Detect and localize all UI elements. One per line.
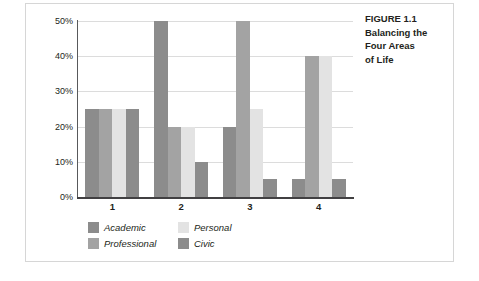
bar-academic-3	[223, 127, 237, 197]
x-axis-tick-4: 4	[316, 201, 321, 212]
y-axis-tick-50pct: 50%	[55, 16, 73, 26]
legend-item-professional: Professional	[88, 237, 156, 250]
bar-group-4	[292, 21, 346, 197]
y-axis-tick-10pct: 10%	[55, 157, 73, 167]
x-axis-tick-3: 3	[247, 201, 252, 212]
legend-label-academic: Academic	[104, 222, 146, 233]
legend-swatch-personal	[178, 222, 189, 233]
bar-academic-4	[292, 179, 306, 197]
bar-civic-3	[263, 179, 277, 197]
legend-swatch-professional	[88, 238, 99, 249]
bar-academic-1	[85, 109, 99, 197]
bar-group-2	[154, 21, 208, 197]
bar-personal-1	[112, 109, 126, 197]
bar-civic-1	[126, 109, 140, 197]
bar-professional-4	[305, 56, 319, 197]
legend-label-civic: Civic	[194, 238, 215, 249]
legend-item-academic: Academic	[88, 221, 146, 234]
bar-personal-4	[319, 56, 333, 197]
bar-civic-4	[332, 179, 346, 197]
bar-civic-2	[195, 162, 209, 197]
legend-label-personal: Personal	[194, 222, 232, 233]
plot-area: 0%10%20%30%40%50%	[78, 21, 353, 197]
bar-academic-2	[154, 21, 168, 197]
figure-page: FIGURE 1.1 Balancing the Four Areas of L…	[0, 0, 479, 281]
x-axis-tick-2: 2	[178, 201, 183, 212]
bar-professional-3	[236, 21, 250, 197]
bar-group-1	[85, 21, 139, 197]
y-axis-tick-30pct: 30%	[55, 86, 73, 96]
chart-legend: Academic Professional Personal Civic	[88, 221, 298, 253]
legend-swatch-civic	[178, 238, 189, 249]
legend-swatch-academic	[88, 222, 99, 233]
bar-group-3	[223, 21, 277, 197]
legend-item-civic: Civic	[178, 237, 215, 250]
y-axis-tick-0pct: 0%	[60, 192, 73, 202]
bar-professional-1	[99, 109, 113, 197]
legend-label-professional: Professional	[104, 238, 156, 249]
y-axis-tick-40pct: 40%	[55, 51, 73, 61]
bar-personal-3	[250, 109, 264, 197]
bar-professional-2	[168, 127, 182, 197]
legend-item-personal: Personal	[178, 221, 232, 234]
x-axis-tick-1: 1	[110, 201, 115, 212]
x-axis-line	[77, 197, 354, 199]
y-axis-tick-20pct: 20%	[55, 122, 73, 132]
bar-personal-2	[181, 127, 195, 197]
